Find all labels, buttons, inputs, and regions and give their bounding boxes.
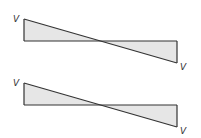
- shear-diagrams: V V V V: [0, 0, 201, 138]
- right-label: V: [180, 62, 187, 72]
- shear-diagram-2: V V: [13, 78, 187, 136]
- right-label: V: [180, 126, 187, 136]
- left-label: V: [13, 14, 20, 24]
- shear-diagram-1: V V: [13, 14, 187, 72]
- left-label: V: [13, 78, 20, 88]
